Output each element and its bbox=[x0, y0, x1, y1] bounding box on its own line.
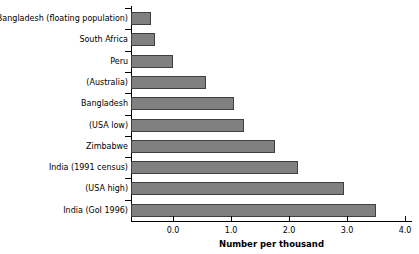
bar-row bbox=[131, 93, 412, 114]
x-tick-label: 0.0 bbox=[167, 226, 180, 235]
plot-area bbox=[131, 8, 412, 221]
bar-row bbox=[131, 8, 412, 29]
category-label-australia: (Australia) bbox=[86, 78, 128, 87]
y-tick bbox=[125, 178, 131, 179]
y-tick bbox=[125, 200, 131, 201]
bar-row bbox=[131, 157, 412, 178]
x-tick bbox=[231, 216, 232, 222]
bar bbox=[131, 204, 376, 217]
category-label-zimbabwe: Zimbabwe bbox=[86, 142, 128, 151]
bar-row bbox=[131, 136, 412, 157]
x-axis-title: Number per thousand bbox=[131, 239, 412, 249]
x-tick bbox=[405, 216, 406, 222]
category-label-bangladesh: Bangladesh bbox=[81, 99, 128, 108]
category-label-bangladesh-floating-population: Bangladesh (floating population) bbox=[0, 14, 128, 23]
bar bbox=[131, 97, 234, 110]
x-tick bbox=[173, 216, 174, 222]
category-label-south-africa: South Africa bbox=[79, 35, 128, 44]
bar bbox=[131, 161, 298, 174]
bar-row bbox=[131, 29, 412, 50]
y-tick bbox=[125, 8, 131, 9]
y-tick bbox=[125, 115, 131, 116]
y-tick bbox=[125, 72, 131, 73]
bar bbox=[131, 55, 173, 68]
y-tick bbox=[125, 93, 131, 94]
bar-row bbox=[131, 72, 412, 93]
y-tick bbox=[125, 157, 131, 158]
bar-row bbox=[131, 51, 412, 72]
bar-chart: Bangladesh (floating population) South A… bbox=[0, 0, 419, 254]
x-tick-label: 3.0 bbox=[341, 226, 354, 235]
bar bbox=[131, 119, 244, 132]
category-label-india-1991-census: India (1991 census) bbox=[49, 163, 128, 172]
bar bbox=[131, 140, 275, 153]
y-tick bbox=[125, 51, 131, 52]
category-label-usa-low: (USA low) bbox=[89, 121, 128, 130]
x-tick bbox=[289, 216, 290, 222]
x-tick-label: 1.0 bbox=[225, 226, 238, 235]
category-label-india-goi-1996: India (GoI 1996) bbox=[63, 206, 128, 215]
x-tick-label: 4.0 bbox=[399, 226, 412, 235]
bar bbox=[131, 76, 206, 89]
y-tick bbox=[125, 136, 131, 137]
bar bbox=[131, 33, 155, 46]
y-tick bbox=[125, 29, 131, 30]
bar-row bbox=[131, 115, 412, 136]
bar bbox=[131, 12, 151, 25]
bar bbox=[131, 182, 344, 195]
category-label-usa-high: (USA high) bbox=[85, 184, 128, 193]
bar-row bbox=[131, 178, 412, 199]
x-tick bbox=[347, 216, 348, 222]
category-label-peru: Peru bbox=[110, 57, 128, 66]
x-tick-label: 2.0 bbox=[283, 226, 296, 235]
